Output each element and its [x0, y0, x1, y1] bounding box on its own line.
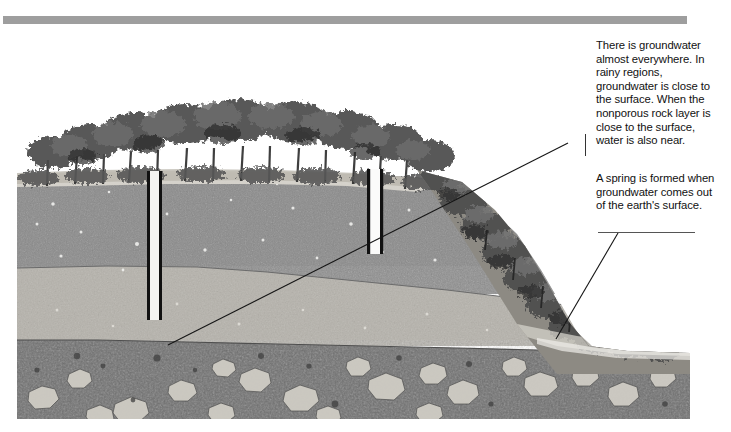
page-root: There is groundwater almost everywhere. … — [0, 0, 731, 432]
note-1-tick — [585, 134, 586, 156]
header-rule-bar — [3, 16, 687, 24]
spring-note: A spring is formed when groundwater come… — [596, 172, 716, 213]
illustration-groundwater-cross-section — [17, 74, 690, 419]
groundwater-note: There is groundwater almost everywhere. … — [596, 39, 721, 148]
spring-note-underline — [598, 232, 695, 233]
